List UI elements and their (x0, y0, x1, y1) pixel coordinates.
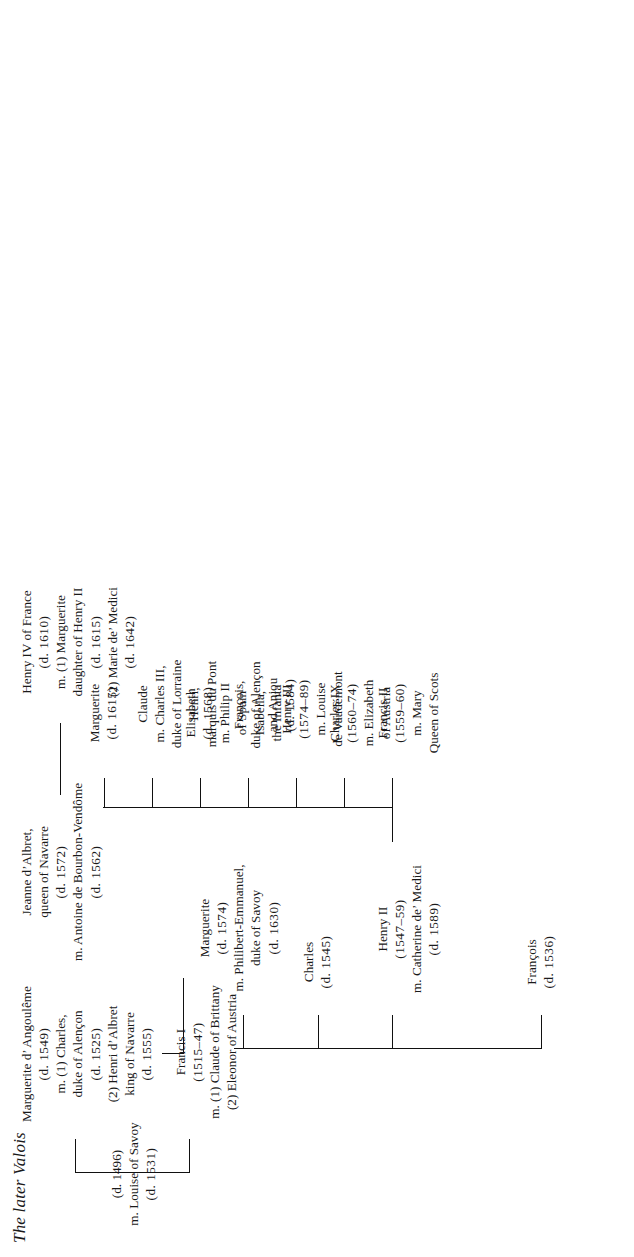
claude-line-2: duke of Lorraine (168, 629, 185, 779)
henry-iii-line-2: m. Louise (312, 639, 329, 779)
jeanne-albret-line-3: m. Antoine de Bourbon-Vendôme (69, 769, 86, 975)
node-francois-1536: François (d. 1536) (523, 907, 557, 1017)
page: The later Valois (d. 1496) m. Louise of … (0, 0, 634, 1257)
connector-to-marguerite-1574 (243, 1015, 244, 1049)
connector-to-francis-i (189, 1139, 190, 1173)
connector-to-charles-1545 (318, 1015, 319, 1049)
marguerite-1574-line-0: Marguerite (196, 839, 213, 1017)
elisabeth-line-5: the Infanta (268, 647, 285, 779)
family-tree-chart: The later Valois (d. 1496) m. Louise of … (0, 0, 634, 1257)
rotated-canvas: The later Valois (d. 1496) m. Louise of … (0, 0, 634, 1257)
francois-1536-line-0: François (523, 907, 540, 1017)
charles-1545-line-1: (d. 1545) (317, 907, 334, 1017)
node-claude: Claude m. Charles III, duke of Lorraine … (134, 629, 220, 779)
henry-iv-line-3: daughter of Henry II (69, 547, 86, 737)
connector-to-charles-ix (344, 778, 345, 808)
marguerite-1615-line-0: Marguerite (86, 647, 103, 779)
henry-iv-line-2: m. (1) Marguerite (52, 547, 69, 737)
connector-gen1-spine (75, 1172, 190, 1173)
claude-line-4: marquis du Pont (203, 629, 220, 779)
node-jeanne-albret: Jeanne d’Albret, queen of Navarre (d. 15… (18, 769, 104, 975)
jeanne-albret-line-0: Jeanne d’Albret, (18, 769, 35, 975)
connector-to-henry-ii (392, 1015, 393, 1049)
charles-1545-line-0: Charles (300, 907, 317, 1017)
marguerite-angouleme-line-5: (2) Henri d’Albret (104, 971, 121, 1137)
francis-i-line-0: Francis I (172, 965, 189, 1139)
claude-line-3: Henri, (185, 629, 202, 779)
jeanne-albret-line-2: (d. 1572) (52, 769, 69, 975)
connector-henry-ii-stem (392, 807, 393, 842)
henry-ii-line-1: (1547–59) (391, 839, 408, 1019)
jeanne-albret-line-4: (d. 1562) (87, 769, 104, 975)
marguerite-angouleme-line-1: (d. 1549) (35, 971, 52, 1137)
claude-line-1: m. Charles III, (151, 629, 168, 779)
marguerite-angouleme-line-3: duke of Alençon (69, 971, 86, 1137)
henry-ii-line-3: (d. 1589) (425, 839, 442, 1019)
connector-to-elisabeth (200, 778, 201, 808)
marguerite-angouleme-line-6: king of Navarre (121, 971, 138, 1137)
henry-iii-line-3: de Vaudémont (329, 639, 346, 779)
connector-to-marguerite-angouleme (75, 1139, 76, 1173)
connector-to-henry-iii (296, 778, 297, 808)
marguerite-1615-line-1: (d. 1615) (103, 647, 120, 779)
marguerite-angouleme-line-0: Marguerite d’ Angoulême (18, 971, 35, 1137)
henry-ii-line-0: Henry II (374, 839, 391, 1019)
connector-to-francois-1536 (541, 1015, 542, 1049)
marguerite-angouleme-line-7: (d. 1555) (138, 971, 155, 1137)
francis-ii-line-2: m. Mary (408, 647, 425, 779)
elisabeth-line-3: of Spain (233, 647, 250, 779)
henry-ii-line-2: m. Catherine de’ Medici (408, 839, 425, 1019)
claude-line-0: Claude (134, 629, 151, 779)
francois-1536-line-1: (d. 1536) (540, 907, 557, 1017)
node-henry-ii: Henry II (1547–59) m. Catherine de’ Medi… (374, 839, 443, 1019)
henry-iv-line-1: (d. 1610) (35, 547, 52, 737)
marguerite-1574-line-3: duke of Savoy (247, 839, 264, 1017)
marguerite-angouleme-line-4: (d. 1525) (87, 971, 104, 1137)
connector-to-francois-alencon (248, 778, 249, 808)
connector-to-claude (152, 778, 153, 808)
marguerite-1574-line-4: (d. 1630) (265, 839, 282, 1017)
marguerite-angouleme-line-2: m. (1) Charles, (52, 971, 69, 1137)
node-charles-1545: Charles (d. 1545) (300, 907, 334, 1017)
chart-title: The later Valois (10, 1132, 30, 1243)
node-marguerite-1574: Marguerite (d. 1574) m. Philibert-Emmanu… (196, 839, 282, 1017)
node-marguerite-angouleme: Marguerite d’ Angoulême (d. 1549) m. (1)… (18, 971, 155, 1137)
charles-ix-line-3: of Austria (377, 647, 394, 779)
henry-iv-line-0: Henry IV of France (18, 547, 35, 737)
elisabeth-line-4: Isabella, (251, 647, 268, 779)
connector-to-marguerite-1615 (104, 778, 105, 808)
jeanne-albret-line-1: queen of Navarre (35, 769, 52, 975)
francis-ii-line-3: Queen of Scots (425, 647, 442, 779)
node-marguerite-1615: Marguerite (d. 1615) (86, 647, 120, 779)
marguerite-1574-line-1: (d. 1574) (213, 839, 230, 1017)
connector-to-francis-ii (392, 778, 393, 808)
charles-ix-line-2: m. Elizabeth (360, 647, 377, 779)
marguerite-1574-line-2: m. Philibert-Emmanuel, (230, 839, 247, 1017)
